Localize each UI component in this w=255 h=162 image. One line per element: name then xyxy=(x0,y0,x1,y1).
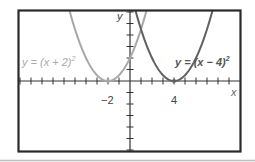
vertex-right-point xyxy=(172,79,176,83)
parabola-x-minus-4-curve xyxy=(130,0,218,81)
y-axis-label: y xyxy=(116,10,124,22)
x-axis-label: x xyxy=(230,86,237,98)
parabola-x-plus-2-curve xyxy=(64,0,152,81)
vertex-left-point xyxy=(106,79,110,83)
graph: y x −2 4 y = (x + 2)2 y = (x − 4)2 xyxy=(0,0,255,162)
tick-label-neg2: −2 xyxy=(101,94,114,106)
tick-label-4: 4 xyxy=(171,94,177,106)
right-equation-label: y = (x − 4)2 xyxy=(174,55,230,68)
left-equation-label: y = (x + 2)2 xyxy=(21,55,76,68)
